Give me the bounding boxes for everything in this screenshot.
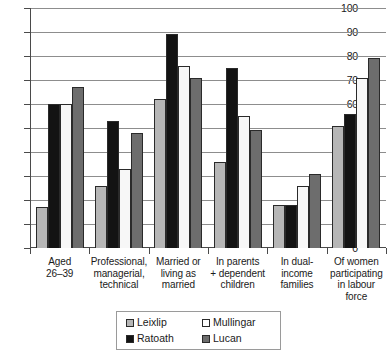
bar-lucan: [309, 174, 321, 248]
x-axis-label-line: income: [268, 268, 325, 280]
legend-item-leixlip: Leixlip: [126, 317, 202, 328]
bar-ratoath: [285, 205, 297, 248]
x-axis-label-line: families: [268, 279, 325, 291]
x-axis-label-line: participating: [328, 268, 385, 280]
legend-swatch-icon: [202, 335, 210, 343]
x-axis-label-line: married: [150, 279, 207, 291]
x-axis-label: In dual-incomefamilies: [267, 256, 326, 302]
legend-swatch-icon: [202, 319, 210, 327]
bar-mullingar: [119, 169, 131, 248]
x-axis-tick-mark: [267, 248, 268, 254]
bar-ratoath: [107, 121, 119, 248]
bar-chart: 1009080706050403020100 Aged26–39Professi…: [0, 0, 392, 354]
bar-leixlip: [214, 162, 226, 248]
bar-mullingar: [60, 104, 72, 248]
legend-row: Leixlip Mullingar: [126, 317, 272, 328]
bar-group: [30, 8, 89, 248]
x-axis-tick-mark: [30, 248, 31, 254]
x-axis-tick-mark: [149, 248, 150, 254]
bar-lucan: [368, 58, 380, 248]
legend-swatch-icon: [126, 319, 134, 327]
bar-lucan: [190, 78, 202, 248]
x-axis-label-line: children: [209, 279, 266, 291]
x-axis-label-line: In dual-: [268, 256, 325, 268]
bar-groups: [30, 8, 386, 248]
x-axis-label-line: In parents: [209, 256, 266, 268]
x-axis-label-line: Married or: [150, 256, 207, 268]
legend-label: Mullingar: [213, 317, 256, 328]
x-axis-tick-mark: [208, 248, 209, 254]
x-axis-tick-mark: [89, 248, 90, 254]
x-axis-label: Of womenparticipatingin labour force: [327, 256, 386, 302]
x-axis-label-line: 26–39: [31, 268, 88, 280]
x-axis-labels: Aged26–39Professional,managerial,technic…: [30, 256, 386, 302]
bar-leixlip: [36, 207, 48, 248]
legend-item-mullingar: Mullingar: [202, 317, 256, 328]
bar-leixlip: [273, 205, 285, 248]
x-axis-label-line: living as: [150, 268, 207, 280]
x-axis-label-line: managerial,: [90, 268, 147, 280]
bar-mullingar: [297, 186, 309, 248]
plot-area: [30, 8, 386, 248]
bar-leixlip: [332, 126, 344, 248]
bar-ratoath: [344, 114, 356, 248]
bar-lucan: [72, 87, 84, 248]
x-axis-tick-mark: [386, 248, 387, 254]
x-axis-label-line: + dependent: [209, 268, 266, 280]
legend-label: Lucan: [213, 333, 242, 344]
bar-group: [208, 8, 267, 248]
bar-lucan: [131, 133, 143, 248]
legend-item-lucan: Lucan: [202, 333, 242, 344]
bar-leixlip: [154, 99, 166, 248]
x-axis-label: Aged26–39: [30, 256, 89, 302]
legend-label: Leixlip: [137, 317, 167, 328]
x-axis-label-line: Aged: [31, 256, 88, 268]
legend-item-ratoath: Ratoath: [126, 333, 202, 344]
bar-mullingar: [356, 78, 368, 248]
x-axis-label: In parents+ dependentchildren: [208, 256, 267, 302]
bar-group: [149, 8, 208, 248]
bar-group: [267, 8, 326, 248]
bar-ratoath: [48, 104, 60, 248]
bar-mullingar: [238, 116, 250, 248]
x-axis-tick-mark: [327, 248, 328, 254]
x-axis-label: Married orliving asmarried: [149, 256, 208, 302]
x-axis-ticks: [30, 248, 386, 254]
x-axis-label-line: technical: [90, 279, 147, 291]
legend-row: Ratoath Lucan: [126, 333, 272, 344]
bar-lucan: [250, 130, 262, 248]
bar-leixlip: [95, 186, 107, 248]
bar-mullingar: [178, 66, 190, 248]
bar-ratoath: [166, 34, 178, 248]
legend-label: Ratoath: [137, 333, 174, 344]
bar-ratoath: [226, 68, 238, 248]
bar-group: [327, 8, 386, 248]
x-axis-label-line: in labour force: [328, 279, 385, 302]
x-axis-label: Professional,managerial,technical: [89, 256, 148, 302]
x-axis-label-line: Of women: [328, 256, 385, 268]
chart-legend: Leixlip Mullingar Ratoath Lucan: [116, 311, 281, 350]
x-axis-label-line: Professional,: [90, 256, 147, 268]
bar-group: [89, 8, 148, 248]
legend-swatch-icon: [126, 335, 134, 343]
